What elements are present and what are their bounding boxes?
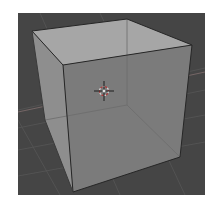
3d-viewport[interactable] (18, 13, 205, 195)
screenshot-page (0, 0, 216, 208)
viewport-canvas[interactable] (18, 13, 205, 195)
